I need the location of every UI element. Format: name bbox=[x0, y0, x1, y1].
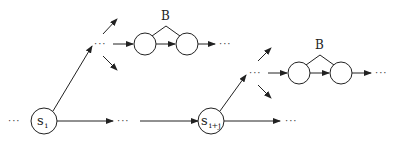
ellipsis-right: ··· bbox=[285, 115, 298, 126]
ellipsis-left: ··· bbox=[8, 115, 21, 126]
node-s-i-label: s bbox=[37, 113, 44, 128]
arrow-sij-up bbox=[220, 75, 246, 111]
ellipsis-mid: ··· bbox=[117, 115, 130, 126]
b1-bracket bbox=[152, 26, 180, 36]
arrow-si-up bbox=[53, 46, 92, 111]
ellipsis-b1-out: ··· bbox=[219, 38, 232, 49]
b1-node-2 bbox=[176, 33, 198, 55]
b2-bracket bbox=[306, 55, 334, 65]
b2-node-2 bbox=[330, 62, 352, 84]
arrow-fan-down-2 bbox=[258, 85, 271, 98]
ellipsis-b2-out: ··· bbox=[375, 67, 388, 78]
main-chain: ··· s i ··· s i+j ··· bbox=[8, 108, 298, 134]
ellipsis-branch-1: ··· bbox=[94, 38, 107, 49]
node-s-i-plus-j: s i+j bbox=[198, 108, 224, 134]
branch-1: ··· B ··· bbox=[53, 9, 232, 111]
node-s-ij-subscript: i+j bbox=[209, 121, 221, 130]
b2-node-1 bbox=[288, 62, 310, 84]
ellipsis-branch-2: ··· bbox=[249, 67, 262, 78]
diagram-canvas: ··· s i ··· s i+j ··· ··· B bbox=[0, 0, 401, 143]
group-b-2: B ··· bbox=[288, 38, 388, 84]
node-s-i-subscript: i bbox=[45, 121, 48, 130]
branch-2: ··· B ··· bbox=[220, 38, 388, 111]
arrow-fan-down-1 bbox=[103, 56, 117, 70]
arrow-fan-up-2 bbox=[258, 48, 271, 61]
arrow-fan-up-1 bbox=[103, 19, 117, 34]
b2-label: B bbox=[315, 38, 324, 52]
node-s-i: s i bbox=[31, 108, 57, 134]
node-s-ij-label: s bbox=[201, 113, 208, 128]
group-b-1: B ··· bbox=[134, 9, 232, 55]
b1-label: B bbox=[161, 9, 170, 23]
b1-node-1 bbox=[134, 33, 156, 55]
